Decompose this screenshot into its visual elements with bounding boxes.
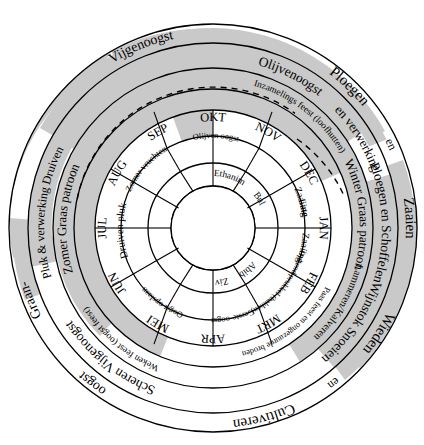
label-zaaien: Zaaien xyxy=(400,197,418,240)
hspoke-330 xyxy=(181,172,194,192)
tspoke-240 xyxy=(133,261,156,275)
tspoke-30 xyxy=(246,148,260,171)
month-label-okt: OKT xyxy=(200,110,227,125)
hspoke-120 xyxy=(247,248,269,261)
tspoke-150 xyxy=(246,284,260,307)
task-label-zaaiing-left: Zaaiing xyxy=(292,185,311,218)
calendar-wheel-diagram: Zaaien Wieden en Cultiveren oogst Graan-… xyxy=(0,0,424,445)
task-label-druiven-pluk: Druiven pluk xyxy=(114,201,130,260)
wheel-svg: Zaaien Wieden en Cultiveren oogst Graan-… xyxy=(0,0,424,445)
tspoke-120 xyxy=(269,261,292,275)
tspoke-210 xyxy=(167,284,181,307)
tspoke-330 xyxy=(167,148,181,171)
hebrew-label-ethanim: Ethanim xyxy=(214,168,248,187)
center-disc xyxy=(171,186,255,270)
hspoke-210 xyxy=(181,265,194,285)
month-label-apr: APR xyxy=(200,331,226,346)
hspoke-240 xyxy=(157,248,179,261)
task-label-opkend-prukkel: Opkend prukkel (bakken) xyxy=(250,249,308,316)
tspoke-60 xyxy=(269,182,292,196)
task-label-gerste-oogst: Gerste-oogst xyxy=(211,307,256,326)
task-label-zomer-vruchten: Zomer vruchten xyxy=(123,143,169,193)
hebrew-label-ziv: Ziv xyxy=(214,276,229,288)
month-label-jul: JUL xyxy=(95,217,110,240)
month-label-jan: JAN xyxy=(317,216,332,240)
hspoke-300 xyxy=(157,196,179,209)
